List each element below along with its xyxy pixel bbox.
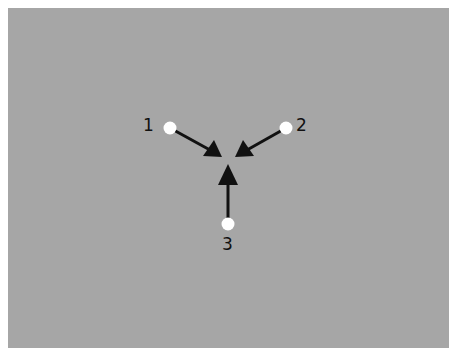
- node-label-2: 2: [296, 117, 307, 134]
- dot-3: [222, 218, 235, 231]
- arrow-3: [218, 164, 238, 224]
- dot-2: [280, 122, 293, 135]
- arrows-diagram: [0, 0, 457, 354]
- arrow-2: [235, 128, 286, 157]
- arrow-1: [170, 128, 222, 157]
- node-label-1: 1: [143, 117, 154, 134]
- dot-1: [164, 122, 177, 135]
- node-label-3: 3: [222, 236, 233, 253]
